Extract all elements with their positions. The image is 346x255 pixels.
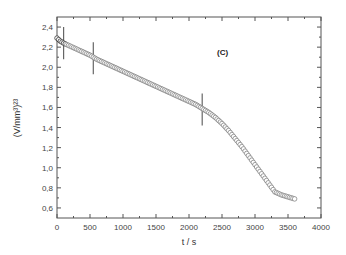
- y-tick-label: 2,4: [42, 23, 54, 32]
- x-axis-label: t / s: [182, 237, 197, 247]
- y-tick-label: 1,8: [42, 83, 54, 92]
- y-tick-label: 1,2: [42, 144, 54, 153]
- y-tick-label: 1,0: [42, 164, 54, 173]
- annotation-label: (C): [217, 48, 228, 57]
- x-tick-label: 2000: [180, 223, 198, 232]
- data-series: [55, 36, 297, 201]
- x-tick-label: 0: [55, 223, 60, 232]
- y-tick-label: 2,2: [42, 43, 54, 52]
- x-tick-label: 4000: [312, 223, 330, 232]
- y-axis-label: (V/mm³)²³: [12, 99, 22, 137]
- y-tick-label: 0,6: [42, 204, 54, 213]
- plot-frame: [57, 17, 321, 218]
- x-tick-label: 1500: [147, 223, 165, 232]
- chart: 05001000150020002500300035004000 0,60,81…: [0, 0, 346, 255]
- x-tick-label: 1000: [114, 223, 132, 232]
- y-tick-label: 1,6: [42, 103, 54, 112]
- y-tick-label: 2,0: [42, 63, 54, 72]
- y-tick-label: 1,4: [42, 124, 54, 133]
- x-tick-label: 2500: [213, 223, 231, 232]
- x-tick-label: 3500: [279, 223, 297, 232]
- x-tick-label: 500: [83, 223, 97, 232]
- x-tick-label: 3000: [246, 223, 264, 232]
- y-tick-label: 0,8: [42, 184, 54, 193]
